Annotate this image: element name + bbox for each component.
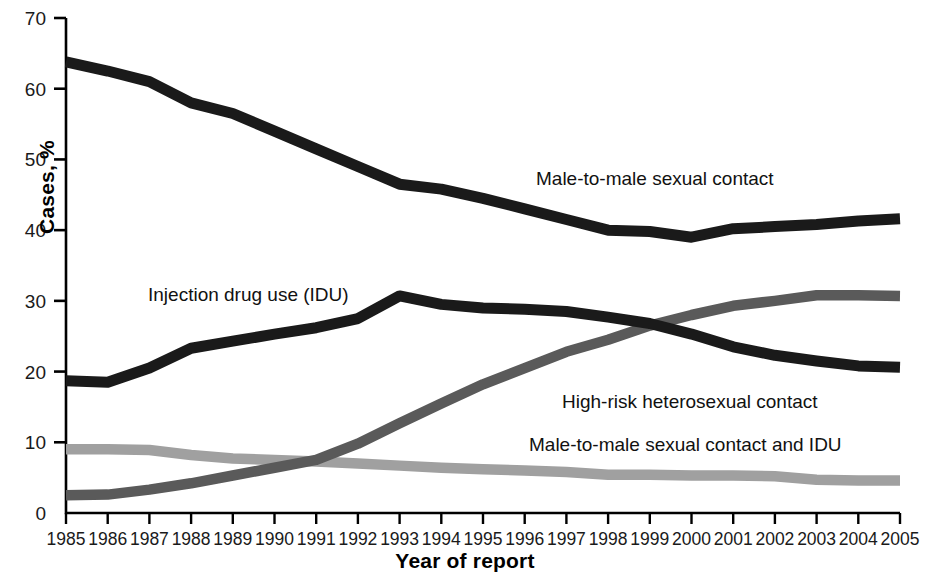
x-tick-label: 1987 [130,529,169,549]
y-tick-label: 30 [25,291,46,312]
x-tick-label: 1998 [589,529,628,549]
x-tick-label: 2003 [797,529,836,549]
x-tick-label: 1997 [547,529,586,549]
x-tick-label: 1991 [297,529,336,549]
x-tick-label: 1993 [380,529,419,549]
x-axis-title: Year of report [0,549,930,573]
series-annotation: High-risk heterosexual contact [562,391,818,412]
series-annotation: Injection drug use (IDU) [148,284,349,305]
x-tick-label: 1989 [213,529,252,549]
x-tick-label: 1986 [88,529,127,549]
y-tick-label: 0 [35,503,46,524]
x-tick-label: 1990 [255,529,294,549]
data-series-group [66,62,900,495]
x-tick-label: 1985 [47,529,86,549]
x-tick-label: 2002 [755,529,794,549]
x-tick-label: 1995 [464,529,503,549]
series-line [66,62,900,237]
x-tick-label: 1994 [422,529,461,549]
line-chart-plot: 010203040506070 198519861987198819891990… [0,0,930,575]
x-tick-label: 2000 [672,529,711,549]
y-tick-label: 20 [25,362,46,383]
x-tick-label: 2004 [839,529,878,549]
x-tick-label: 1996 [505,529,544,549]
x-tick-label: 1999 [630,529,669,549]
y-tick-label: 70 [25,8,46,29]
x-axis-ticks: 1985198619871988198919901991199219931994… [47,513,920,549]
y-tick-label: 10 [25,432,46,453]
y-tick-label: 60 [25,79,46,100]
y-axis-ticks: 010203040506070 [25,8,66,524]
series-annotation: Male-to-male sexual contact and IDU [529,434,842,455]
chart-container: 010203040506070 198519861987198819891990… [0,0,930,575]
x-tick-label: 1992 [338,529,377,549]
x-tick-label: 2005 [881,529,920,549]
x-tick-label: 1988 [172,529,211,549]
series-annotation: Male-to-male sexual contact [536,168,774,189]
series-line [66,296,900,382]
x-tick-label: 2001 [714,529,753,549]
y-axis-title: Cases, % [35,132,59,242]
